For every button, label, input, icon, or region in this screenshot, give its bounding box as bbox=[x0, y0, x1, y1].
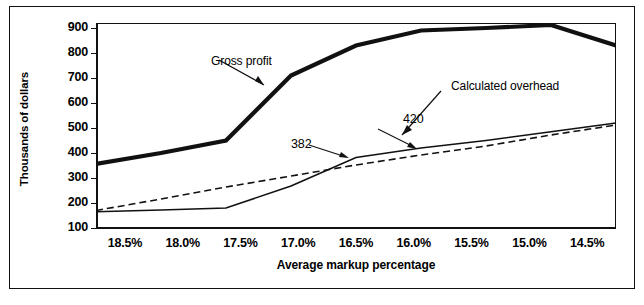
annotation-value-420: 420 bbox=[403, 112, 424, 126]
annotation-calculated-overhead: Calculated overhead bbox=[451, 79, 559, 93]
annotation-value-382: 382 bbox=[291, 137, 312, 151]
y-tick-label-600: 600 bbox=[48, 96, 88, 108]
series-gross-profit-line bbox=[96, 25, 616, 164]
value-420-leader-line bbox=[378, 129, 417, 149]
y-axis-labels: 900 800 700 600 500 400 300 200 100 bbox=[44, 0, 88, 305]
x-tick-label-3: 17.0% bbox=[269, 236, 327, 254]
y-tick-label-900: 900 bbox=[48, 21, 88, 33]
x-tick-label-8: 14.5% bbox=[558, 236, 616, 254]
x-tick-label-7: 15.0% bbox=[500, 236, 558, 254]
y-tick-label-700: 700 bbox=[48, 71, 88, 83]
value-382-leader-line bbox=[309, 145, 349, 158]
y-axis-title: Thousands of dollars bbox=[18, 54, 30, 204]
x-axis-labels: 18.5% 18.0% 17.5% 17.0% 16.5% 16.0% 15.5… bbox=[96, 236, 616, 254]
y-tick-label-800: 800 bbox=[48, 46, 88, 58]
y-tick-label-400: 400 bbox=[48, 146, 88, 158]
y-tick-label-300: 300 bbox=[48, 171, 88, 183]
x-tick-label-4: 16.5% bbox=[327, 236, 385, 254]
annotation-gross-profit: Gross profit bbox=[211, 54, 272, 68]
x-tick-label-1: 18.0% bbox=[154, 236, 212, 254]
y-tick-label-500: 500 bbox=[48, 121, 88, 133]
chart-figure: Thousands of dollars 900 800 700 600 500… bbox=[0, 0, 644, 305]
x-tick-label-2: 17.5% bbox=[212, 236, 270, 254]
series-calculated-overhead-line bbox=[96, 123, 616, 212]
chart-plot-svg bbox=[96, 23, 616, 229]
x-axis-title: Average markup percentage bbox=[96, 258, 616, 272]
x-tick-label-6: 15.5% bbox=[443, 236, 501, 254]
x-tick-label-5: 16.0% bbox=[385, 236, 443, 254]
series-reference-overhead-line bbox=[96, 125, 616, 211]
x-tick-label-0: 18.5% bbox=[96, 236, 154, 254]
y-tick-label-200: 200 bbox=[48, 196, 88, 208]
y-tick-label-100: 100 bbox=[48, 221, 88, 233]
